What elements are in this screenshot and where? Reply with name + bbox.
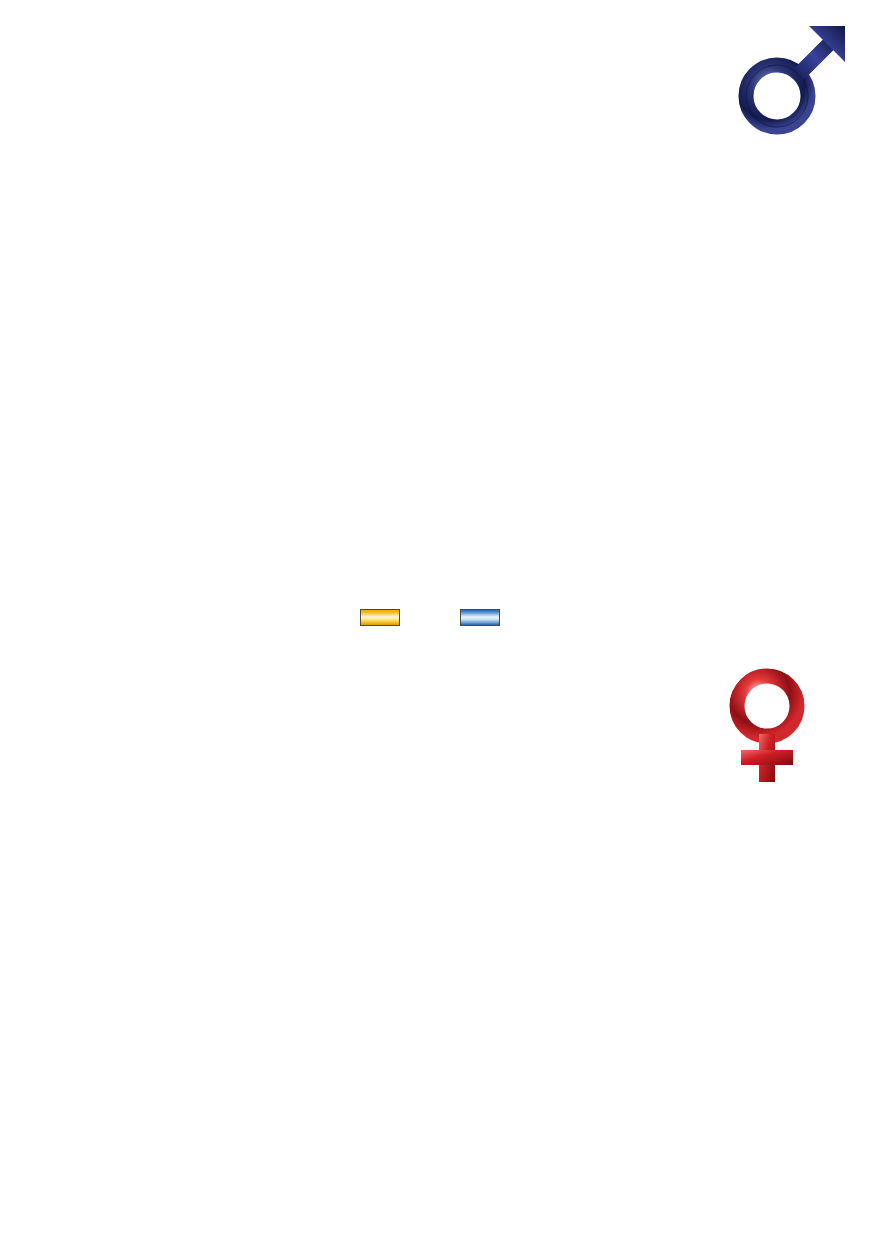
legend-item-1988: [460, 609, 514, 626]
legend-item-1958: [360, 609, 414, 626]
legend-swatch-blue: [460, 609, 500, 626]
legend-swatch-yellow: [360, 609, 400, 626]
legend: [0, 600, 873, 634]
male-gender-symbol: [731, 20, 851, 140]
chart-women: [0, 648, 873, 1158]
chart-men: [0, 0, 873, 590]
female-gender-symbol: [711, 660, 821, 790]
